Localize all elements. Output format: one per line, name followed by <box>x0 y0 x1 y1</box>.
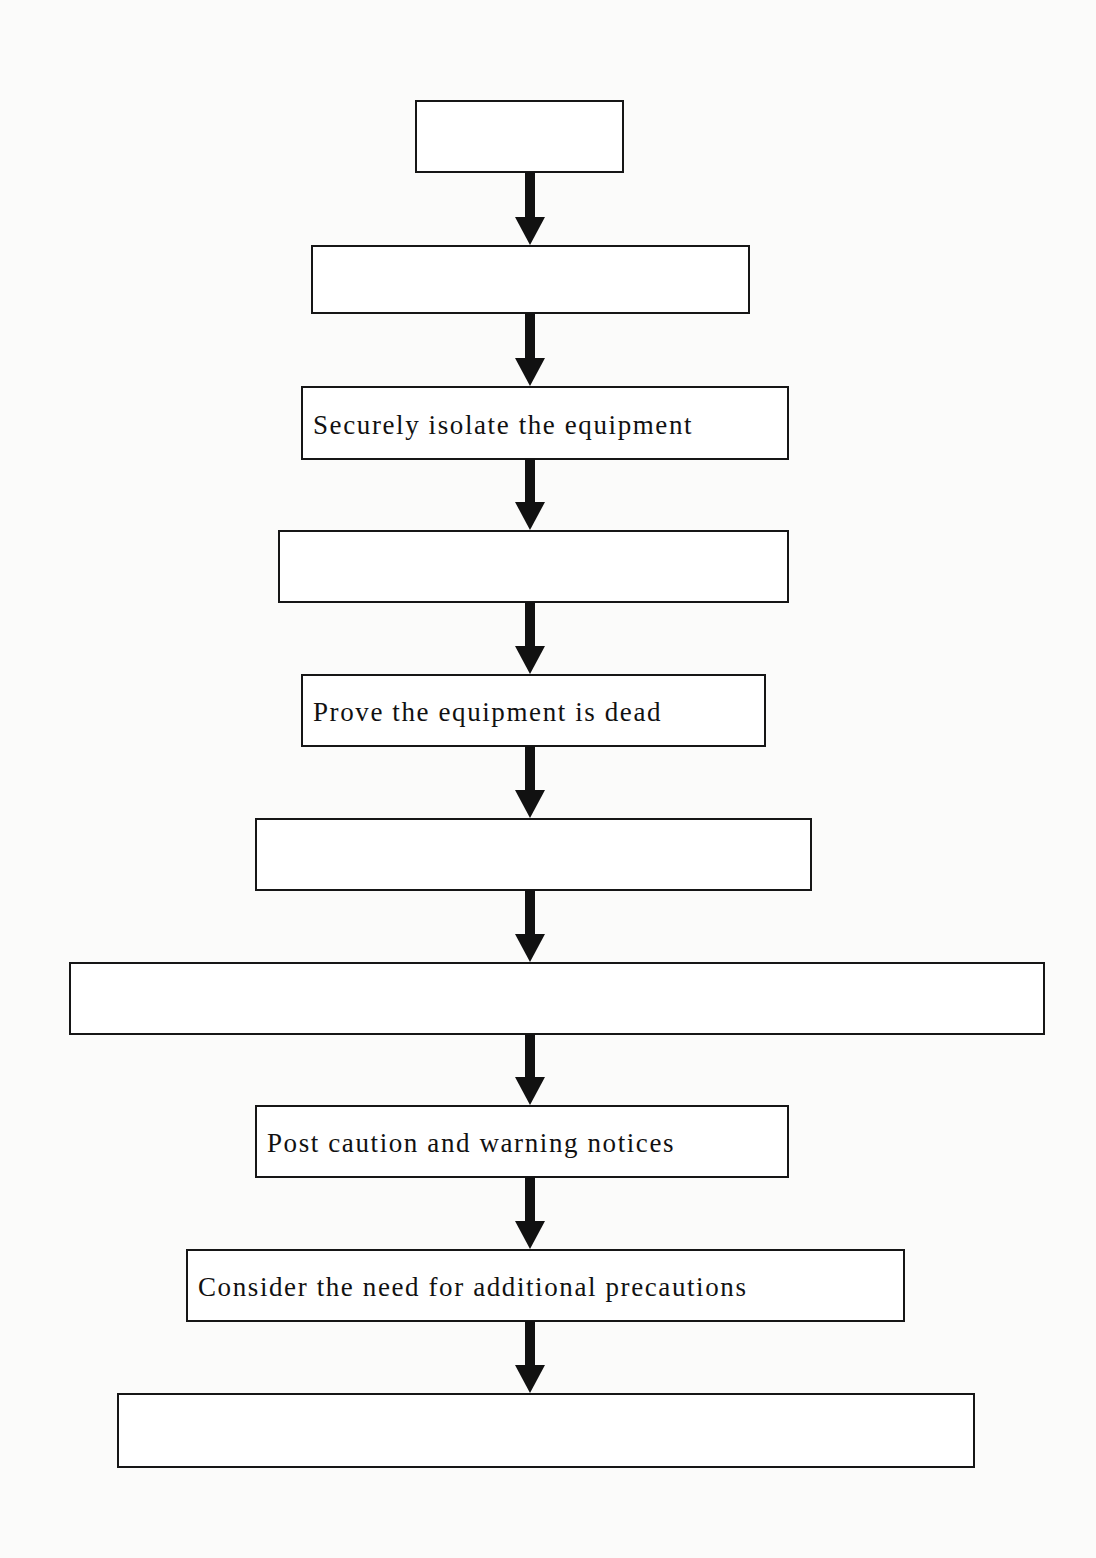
down-arrow-icon <box>513 746 547 818</box>
down-arrow-icon <box>513 313 547 386</box>
step-label-5: Prove the equipment is dead <box>313 699 662 726</box>
step-label-8: Post caution and warning notices <box>267 1130 675 1157</box>
step-box-4 <box>278 530 789 603</box>
down-arrow-icon <box>513 1177 547 1249</box>
step-label-3: Securely isolate the equipment <box>313 412 693 439</box>
down-arrow-icon <box>513 1034 547 1105</box>
flowchart: Securely isolate the equipment Prove the… <box>0 0 1096 1558</box>
down-arrow-icon <box>513 1321 547 1393</box>
step-box-9: Consider the need for additional precaut… <box>186 1249 905 1322</box>
step-box-10 <box>117 1393 975 1468</box>
step-box-6 <box>255 818 812 891</box>
down-arrow-icon <box>513 890 547 962</box>
step-box-8: Post caution and warning notices <box>255 1105 789 1178</box>
down-arrow-icon <box>513 172 547 245</box>
step-box-5: Prove the equipment is dead <box>301 674 766 747</box>
down-arrow-icon <box>513 459 547 530</box>
step-box-1 <box>415 100 624 173</box>
step-label-9: Consider the need for additional precaut… <box>198 1274 748 1301</box>
step-box-3: Securely isolate the equipment <box>301 386 789 460</box>
down-arrow-icon <box>513 602 547 674</box>
step-box-2 <box>311 245 750 314</box>
step-box-7 <box>69 962 1045 1035</box>
